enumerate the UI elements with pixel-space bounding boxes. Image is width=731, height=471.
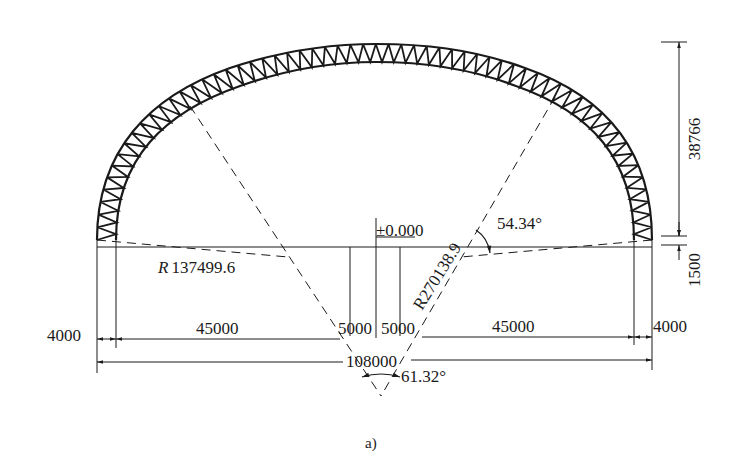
label-span-right-edge: 4000 — [653, 317, 687, 336]
label-span-total: 108000 — [346, 352, 397, 371]
label-radius-side-prefix: R — [157, 258, 169, 277]
label-radius-center: R270138.9 — [409, 239, 465, 313]
label-angle-center: 61.32° — [401, 367, 446, 386]
figure-caption: a) — [365, 435, 377, 452]
label-elevation: ±0.000 — [376, 221, 424, 240]
side-radius-line-left — [97, 240, 288, 257]
angle-arc-side — [476, 230, 490, 253]
label-span-right: 45000 — [492, 317, 535, 336]
ground-lines — [97, 218, 652, 373]
arch-outer-chord — [97, 44, 652, 240]
label-span-left-edge: 4000 — [47, 326, 81, 345]
label-span-mid-right: 5000 — [381, 319, 415, 338]
truss-web-members — [97, 44, 652, 240]
vertical-dimensions — [661, 42, 687, 260]
label-span-left: 45000 — [196, 319, 239, 338]
arch-truss-diagram: 38766 1500 ±0.000 54.34° 61.32° R137499.… — [0, 0, 731, 471]
label-rise: 38766 — [685, 118, 704, 161]
label-radius-side-value: 137499.6 — [171, 258, 235, 277]
label-base-height: 1500 — [685, 253, 704, 287]
label-radius-side: R137499.6 — [157, 258, 235, 277]
label-span-mid-left: 5000 — [338, 319, 372, 338]
arch-truss-webs — [97, 44, 652, 240]
label-angle-side: 54.34° — [497, 214, 542, 233]
arch-truss — [97, 44, 652, 240]
